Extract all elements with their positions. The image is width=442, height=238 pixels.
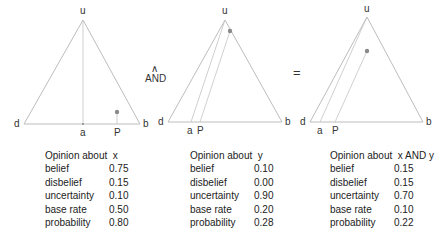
vertex-u-label: u — [80, 5, 86, 16]
vertex-d-label: d — [14, 118, 20, 129]
table-title: Opinion about x — [45, 149, 128, 162]
table-row: belief0.10 — [190, 162, 273, 175]
vertex-b-label: b — [143, 118, 149, 129]
table-row: probability0.80 — [45, 216, 128, 229]
table-row: disbelief0.00 — [190, 176, 273, 189]
projection-label: P — [197, 125, 204, 136]
opinion-point-x — [115, 110, 119, 114]
table-row: probability0.28 — [190, 216, 273, 229]
table-title: Opinion about x AND y — [330, 149, 434, 162]
equals-symbol: = — [293, 65, 301, 80]
opinion-table-y: Opinion about y belief0.10 disbelief0.00… — [190, 149, 273, 229]
table-row: disbelief0.15 — [45, 176, 128, 189]
opinion-table-x: Opinion about x belief0.75 disbelief0.15… — [45, 149, 128, 229]
table-row: base rate0.20 — [190, 203, 273, 216]
table-row: uncertainty0.90 — [190, 189, 273, 202]
projection-label: P — [114, 127, 121, 138]
table-row: disbelief0.15 — [330, 176, 434, 189]
opinion-table-x-and-y: Opinion about x AND y belief0.15 disbeli… — [330, 149, 434, 229]
vertex-d-label: d — [300, 116, 306, 127]
triangle-x-and-y: u d b a P — [300, 3, 432, 136]
table-row: uncertainty0.10 — [45, 189, 128, 202]
and-label: AND — [145, 73, 166, 84]
table-row: base rate0.50 — [45, 203, 128, 216]
table-row: base rate0.10 — [330, 203, 434, 216]
triangle-y: u d b a P — [158, 5, 291, 136]
vertex-b-label: b — [426, 116, 432, 127]
table-row: belief0.75 — [45, 162, 128, 175]
base-rate-label: a — [80, 127, 86, 138]
triangle-x: u d b a P — [14, 5, 149, 138]
base-rate-label: a — [317, 125, 323, 136]
vertex-u-label: u — [364, 3, 370, 14]
vertex-b-label: b — [285, 116, 291, 127]
table-row: probability0.22 — [330, 216, 434, 229]
table-title: Opinion about y — [190, 149, 273, 162]
opinion-point-y — [228, 29, 232, 33]
opinion-triangles: u d b a P u d b a P u d b a P ∧ AND = — [0, 0, 442, 140]
base-rate-label: a — [187, 125, 193, 136]
vertex-d-label: d — [158, 116, 164, 127]
projection-label: P — [332, 125, 339, 136]
vertex-u-label: u — [222, 5, 228, 16]
opinion-point-x-and-y — [365, 49, 369, 53]
table-row: belief0.15 — [330, 162, 434, 175]
table-row: uncertainty0.70 — [330, 189, 434, 202]
